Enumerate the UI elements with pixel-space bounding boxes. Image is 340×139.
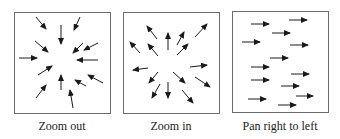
arrow-icon bbox=[149, 72, 158, 83]
zoom-in-arrows bbox=[130, 24, 210, 103]
arrow-icon bbox=[177, 32, 184, 45]
arrow-icon bbox=[38, 66, 52, 75]
caption-zoom-in: Zoom in bbox=[111, 119, 231, 134]
arrow-icon bbox=[195, 24, 207, 37]
arrow-icon bbox=[190, 65, 207, 67]
arrow-icon bbox=[75, 80, 86, 86]
arrow-icon bbox=[195, 77, 210, 87]
arrow-icon bbox=[147, 26, 157, 39]
zoom-out-arrows bbox=[19, 17, 103, 108]
arrow-icon bbox=[36, 17, 46, 29]
arrow-icon bbox=[36, 85, 46, 98]
pan-arrows bbox=[242, 20, 313, 105]
arrow-icon bbox=[70, 90, 73, 108]
arrow-icon bbox=[152, 84, 160, 98]
arrow-icon bbox=[74, 17, 80, 30]
arrow-icon bbox=[73, 43, 83, 53]
arrow-icon bbox=[84, 43, 98, 50]
arrow-icon bbox=[173, 72, 185, 83]
caption-zoom-out: Zoom out bbox=[2, 119, 122, 134]
arrow-icon bbox=[130, 42, 140, 53]
arrow-icon bbox=[35, 41, 48, 52]
arrow-icon bbox=[177, 44, 188, 55]
arrow-icon bbox=[182, 90, 193, 103]
arrow-icon bbox=[148, 44, 158, 56]
arrow-icon bbox=[88, 75, 103, 83]
caption-pan-right-to-left: Pan right to left bbox=[220, 119, 340, 134]
arrow-icon bbox=[133, 68, 148, 70]
